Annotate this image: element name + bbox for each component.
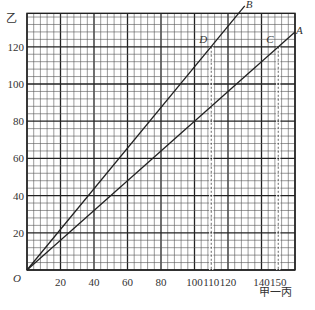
x-tick-label: 80 bbox=[156, 276, 168, 288]
y-tick-label: 40 bbox=[13, 190, 25, 202]
series-label-A: A bbox=[295, 24, 303, 36]
grid bbox=[27, 13, 295, 270]
y-axis-label: 乙 bbox=[6, 12, 17, 24]
y-tick-label: 100 bbox=[8, 78, 25, 90]
y-tick-label: 80 bbox=[13, 115, 25, 127]
series-line-B bbox=[27, 6, 245, 270]
point-label-C: C bbox=[266, 33, 274, 45]
x-tick-label: 20 bbox=[55, 276, 67, 288]
series-label-B: B bbox=[246, 0, 253, 10]
origin-label: O bbox=[13, 272, 21, 284]
x-axis-label: 甲一丙 bbox=[259, 286, 292, 298]
x-tick-label: 40 bbox=[89, 276, 101, 288]
x-tick-label: 110 bbox=[203, 276, 220, 288]
chart: DC BA 2040608010011012014015020406080100… bbox=[0, 0, 315, 310]
y-tick-label: 60 bbox=[13, 152, 25, 164]
y-tick-label: 20 bbox=[13, 227, 25, 239]
point-label-D: D bbox=[198, 33, 207, 45]
x-tick-label: 100 bbox=[186, 276, 203, 288]
x-tick-label: 60 bbox=[122, 276, 134, 288]
y-tick-label: 120 bbox=[8, 41, 25, 53]
droplines: DC bbox=[198, 33, 280, 270]
x-tick-label: 120 bbox=[220, 276, 237, 288]
